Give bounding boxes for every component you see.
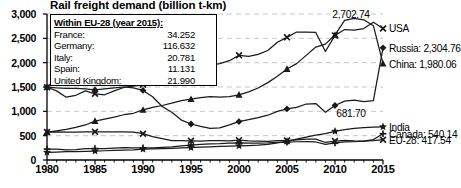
x-axis-tick: 2010 bbox=[323, 163, 346, 175]
inner-legend-value: 11.131 bbox=[168, 63, 213, 75]
x-axis-tick: 1995 bbox=[179, 163, 202, 175]
inner-legend-label: Italy: bbox=[54, 52, 73, 64]
x-axis-tick: 1990 bbox=[131, 163, 154, 175]
inner-legend-row: Italy:20.781 bbox=[54, 52, 213, 64]
y-axis-tick: 1,000 bbox=[0, 105, 36, 117]
inner-legend-label: Spain: bbox=[54, 63, 80, 75]
inner-legend-row: Germany:116.632 bbox=[54, 40, 213, 52]
inner-legend-value: 20.781 bbox=[167, 52, 213, 64]
x-axis-tick: 2015 bbox=[371, 163, 394, 175]
series-value-label: 2,702.74 bbox=[332, 9, 369, 20]
inner-legend-value: 116.632 bbox=[163, 40, 213, 52]
y-axis-tick: 1,500 bbox=[0, 81, 36, 93]
chart-title: Rail freight demand (billion t-km) bbox=[50, 0, 226, 11]
inner-legend-row: United Kingdom:21.990 bbox=[54, 75, 213, 87]
inner-legend-header: Within EU-28 (year 2015): bbox=[54, 17, 213, 29]
series-end-label: Russia: 2,304.76 bbox=[389, 42, 461, 53]
series-end-label: USA bbox=[389, 23, 409, 34]
series-value-label: 681.70 bbox=[336, 107, 365, 118]
y-axis-tick: 2,500 bbox=[0, 32, 36, 44]
inner-legend-value: 21.990 bbox=[167, 75, 213, 87]
inner-legend-label: Germany: bbox=[54, 40, 94, 52]
x-axis-tick: 1980 bbox=[35, 163, 58, 175]
inner-legend-box: Within EU-28 (year 2015): France:34.252G… bbox=[50, 14, 217, 86]
x-axis-tick: 1985 bbox=[83, 163, 106, 175]
x-axis-tick: 2005 bbox=[275, 163, 298, 175]
y-axis-tick: 0 bbox=[0, 154, 36, 166]
inner-legend-label: United Kingdom: bbox=[54, 75, 121, 87]
inner-legend-label: France: bbox=[54, 29, 85, 41]
inner-legend-value: 34.252 bbox=[167, 29, 213, 41]
y-axis-tick: 2,000 bbox=[0, 57, 36, 69]
y-axis-tick: 500 bbox=[0, 130, 36, 142]
x-axis-tick: 2000 bbox=[227, 163, 250, 175]
series-end-label: EU-28: 417.54 bbox=[389, 134, 451, 145]
inner-legend-row: Spain:11.131 bbox=[54, 63, 213, 75]
y-axis-tick: 3,000 bbox=[0, 8, 36, 20]
series-end-label: China: 1,980.06 bbox=[389, 58, 456, 69]
inner-legend-rows: France:34.252Germany:116.632Italy:20.781… bbox=[54, 29, 213, 87]
inner-legend-row: France:34.252 bbox=[54, 29, 213, 41]
